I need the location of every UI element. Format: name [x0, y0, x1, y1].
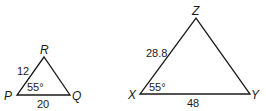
side-pr-label: 12 [17, 65, 29, 77]
triangle-pqr: R P Q 12 20 55° [4, 43, 81, 110]
vertex-x-label: X [127, 88, 137, 102]
side-xy-label: 48 [187, 97, 199, 109]
diagram-canvas: R P Q 12 20 55° Z X Y 28.8 48 55° [0, 0, 266, 111]
triangle-xyz: Z X Y 28.8 48 55° [127, 4, 260, 109]
vertex-p-label: P [4, 89, 12, 103]
vertex-z-label: Z [191, 4, 200, 18]
vertex-y-label: Y [251, 88, 260, 102]
angle-p-label: 55° [27, 81, 44, 93]
vertex-r-label: R [40, 43, 49, 57]
side-xz-label: 28.8 [146, 47, 167, 59]
vertex-q-label: Q [72, 89, 81, 103]
side-pq-label: 20 [37, 98, 49, 110]
angle-x-label: 55° [149, 81, 166, 93]
